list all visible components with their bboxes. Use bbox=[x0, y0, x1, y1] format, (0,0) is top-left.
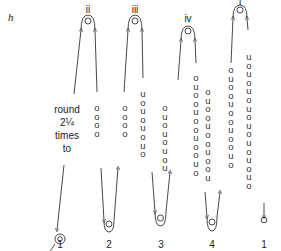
column-4-bottom-loop bbox=[205, 192, 220, 231]
bead-strand: o u o o u o o u o o u o bbox=[226, 66, 236, 169]
bead-strand: u o u o u o u o u o u o u o u o bbox=[244, 53, 254, 191]
instruction-text: round 2¼ times to bbox=[45, 103, 89, 155]
bead-strand: o u o u o u o u bbox=[160, 104, 170, 173]
bottom-label-2: 2 bbox=[104, 240, 114, 250]
bead-strand: o u o o u o o u o o u bbox=[203, 88, 213, 183]
bead-strand: u o u o u o u o bbox=[138, 90, 148, 159]
bottom-label-4: 4 bbox=[207, 240, 217, 250]
bottom-label-3: 3 bbox=[156, 240, 166, 250]
bead-strand: o u o o u o o u o o u o bbox=[191, 74, 201, 177]
column-3-bottom-loop bbox=[152, 172, 170, 226]
instruction-line: round bbox=[45, 103, 89, 116]
column-ii-top-loop bbox=[74, 15, 97, 94]
figure-label: h bbox=[8, 12, 14, 23]
weaving-diagram: h ii iii iv i round 2¼ times to o o o o … bbox=[0, 0, 281, 251]
bead-strand: o o o o bbox=[120, 104, 130, 138]
column-label-ii: ii bbox=[83, 5, 93, 15]
instruction-line: to bbox=[45, 142, 89, 155]
column-label-iii: iii bbox=[130, 5, 140, 15]
instruction-line: times bbox=[45, 129, 89, 142]
bottom-label-1: 1 bbox=[55, 240, 65, 250]
column-iii-top-loop bbox=[124, 15, 143, 92]
bottom-label-1-end: 1 bbox=[259, 240, 269, 250]
column-label-i: i bbox=[235, 0, 245, 7]
column-2-bottom-loop bbox=[101, 168, 118, 232]
instruction-line: 2¼ bbox=[45, 116, 89, 129]
end-ring-1 bbox=[261, 203, 267, 223]
column-label-iv: iv bbox=[183, 14, 193, 24]
bead-strand: o o o o bbox=[92, 104, 102, 138]
